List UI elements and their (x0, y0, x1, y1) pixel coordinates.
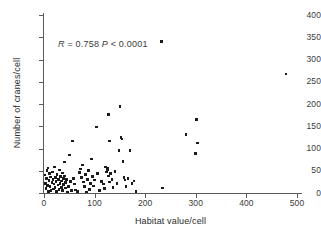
data-point (125, 185, 128, 188)
data-point (82, 181, 85, 184)
data-point (78, 171, 81, 174)
data-point (196, 142, 199, 145)
r-value: = 0.758 (65, 39, 102, 49)
data-point (53, 166, 56, 169)
data-point (195, 118, 198, 121)
data-point (105, 171, 108, 174)
data-point (62, 183, 65, 186)
data-point (160, 40, 163, 43)
data-point (47, 167, 50, 170)
data-point (98, 189, 101, 192)
data-point (87, 169, 90, 172)
data-point (119, 105, 122, 108)
data-point (73, 183, 76, 186)
data-point (61, 189, 64, 192)
data-point (81, 164, 84, 167)
data-point (108, 140, 111, 143)
data-point (131, 182, 134, 185)
data-point (122, 160, 125, 163)
data-point (65, 178, 68, 181)
data-point (63, 161, 66, 164)
data-point (107, 113, 110, 116)
data-point (66, 191, 69, 194)
data-point (116, 182, 119, 185)
data-point (85, 191, 88, 194)
data-point (121, 138, 124, 141)
data-point (76, 190, 79, 193)
x-axis-line (44, 193, 302, 194)
x-tick-label: 0 (29, 199, 59, 208)
scatter-plot-figure: 050100150200250300350400 010020030040050… (0, 0, 321, 238)
data-point (83, 185, 86, 188)
data-point (80, 176, 83, 179)
data-point (67, 185, 70, 188)
data-point (135, 190, 138, 193)
correlation-annotation: R = 0.758 P < 0.0001 (58, 39, 148, 49)
data-point (86, 178, 89, 181)
data-point (54, 186, 57, 189)
data-point (68, 154, 71, 157)
data-point (60, 180, 63, 183)
data-point (90, 158, 93, 161)
x-tick-label: 200 (130, 199, 160, 208)
data-point (71, 140, 74, 143)
data-point (103, 187, 106, 190)
data-point (185, 133, 188, 136)
data-point (107, 175, 110, 178)
x-tick-label: 500 (282, 199, 312, 208)
data-point (102, 183, 105, 186)
data-point (70, 189, 73, 192)
data-point (63, 175, 66, 178)
data-point (111, 178, 114, 181)
data-point (59, 182, 62, 185)
r-symbol: R (58, 39, 65, 49)
data-point (56, 173, 59, 176)
data-point (49, 185, 52, 188)
x-tick-label: 400 (231, 199, 261, 208)
data-point (79, 168, 82, 171)
data-point (92, 185, 95, 188)
data-point (109, 172, 112, 175)
data-point (108, 181, 111, 184)
data-point (69, 180, 72, 183)
data-point (96, 172, 99, 175)
p-value: < 0.0001 (108, 39, 148, 49)
x-axis-title: Habitat value/cell (44, 216, 297, 226)
data-point (106, 167, 109, 170)
data-point (194, 152, 197, 155)
x-tick-label: 100 (80, 199, 110, 208)
x-tick-label: 300 (181, 199, 211, 208)
data-point (51, 171, 54, 174)
data-point (285, 73, 288, 76)
data-point (161, 187, 164, 190)
data-point (84, 173, 87, 176)
data-point (127, 177, 130, 180)
data-point (91, 175, 94, 178)
data-point (114, 170, 117, 173)
data-point (93, 179, 96, 182)
data-point (112, 186, 115, 189)
data-point (72, 177, 75, 180)
data-point (133, 180, 136, 183)
data-point (95, 126, 98, 129)
data-point (64, 181, 67, 184)
data-point (55, 190, 58, 193)
data-point (118, 149, 121, 152)
y-axis-title: Number of cranes/cell (12, 23, 22, 183)
data-point (129, 149, 132, 152)
data-point (88, 188, 91, 191)
